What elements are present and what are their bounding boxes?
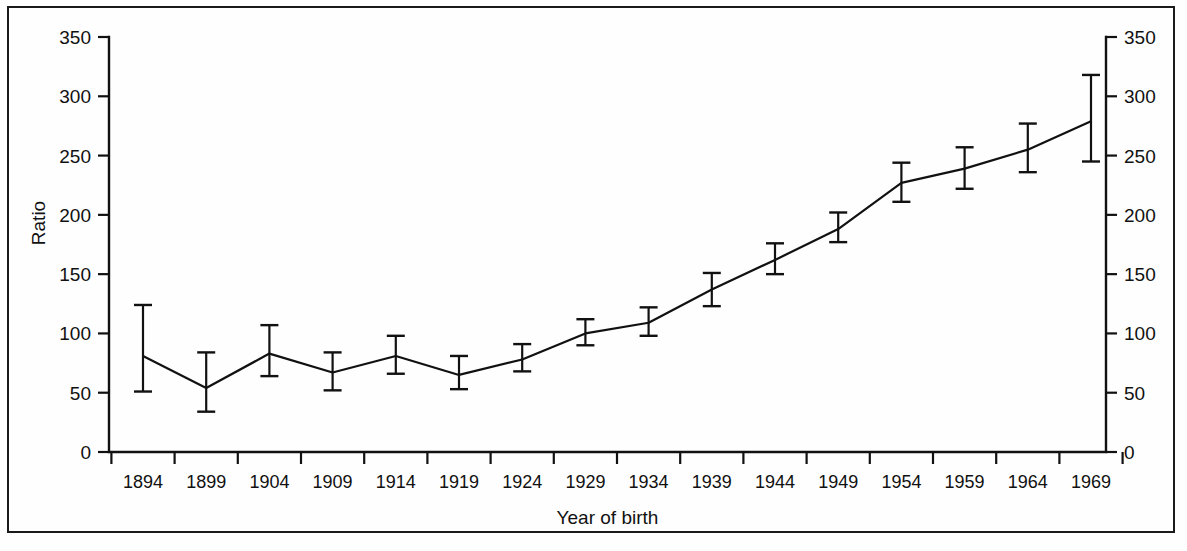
x-axis-tick-labels: 1894189919041909191419191924192919341939… — [123, 472, 1111, 492]
x-tick-label: 1969 — [1071, 472, 1111, 492]
chart-page: 050100150200250300350 050100150200250300… — [0, 0, 1187, 551]
y-tick-label-left: 300 — [59, 86, 91, 107]
y-tick-label-left: 350 — [59, 27, 91, 48]
figure-frame: 050100150200250300350 050100150200250300… — [7, 6, 1175, 533]
x-tick-label: 1939 — [692, 472, 732, 492]
y-tick-label-right: 50 — [1124, 383, 1145, 404]
x-tick-label: 1924 — [502, 472, 542, 492]
y-tick-label-left: 0 — [80, 442, 91, 463]
y-tick-label-right: 200 — [1124, 205, 1156, 226]
error-bars-group — [134, 75, 1100, 412]
x-tick-label: 1944 — [755, 472, 795, 492]
y-axis-title: Ratio — [28, 201, 49, 245]
y-tick-label-right: 350 — [1124, 27, 1156, 48]
y-tick-label-right: 100 — [1124, 323, 1156, 344]
series-line-group — [143, 121, 1091, 388]
x-tick-label: 1959 — [945, 472, 985, 492]
axis-lines — [109, 37, 1106, 452]
x-tick-label: 1929 — [565, 472, 605, 492]
x-tick-label: 1954 — [881, 472, 921, 492]
y-tick-label-right: 150 — [1124, 264, 1156, 285]
x-tick-label: 1934 — [629, 472, 669, 492]
axes-group — [109, 37, 1106, 452]
series-line-ratio — [143, 121, 1091, 388]
x-axis-title: Year of birth — [557, 507, 659, 528]
y-axis-right-ticks: 050100150200250300350 — [1106, 27, 1156, 463]
y-tick-label-right: 250 — [1124, 146, 1156, 167]
line-chart-with-error-bars: 050100150200250300350 050100150200250300… — [9, 8, 1177, 535]
x-tick-label: 1914 — [376, 472, 416, 492]
y-tick-label-left: 250 — [59, 146, 91, 167]
y-axis-left-ticks: 050100150200250300350 — [59, 27, 109, 463]
x-axis-ticks — [111, 452, 1122, 464]
x-tick-label: 1909 — [313, 472, 353, 492]
x-tick-label: 1894 — [123, 472, 163, 492]
x-tick-label: 1919 — [439, 472, 479, 492]
y-tick-label-left: 50 — [70, 383, 91, 404]
y-tick-label-right: 300 — [1124, 86, 1156, 107]
x-tick-label: 1904 — [249, 472, 289, 492]
x-tick-label: 1949 — [818, 472, 858, 492]
y-tick-label-right: 0 — [1124, 442, 1135, 463]
y-tick-label-left: 150 — [59, 264, 91, 285]
y-tick-label-left: 100 — [59, 323, 91, 344]
x-tick-label: 1899 — [186, 472, 226, 492]
y-tick-label-left: 200 — [59, 205, 91, 226]
x-tick-label: 1964 — [1008, 472, 1048, 492]
